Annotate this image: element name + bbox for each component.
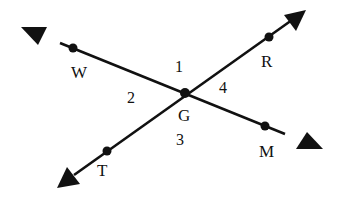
- point-g: [180, 88, 190, 98]
- angle-label-1: 1: [175, 58, 183, 75]
- arrowhead-w-end-icon: [21, 27, 47, 45]
- arrowhead-r-end-icon: [284, 10, 306, 31]
- line-wm: [21, 27, 323, 149]
- point-r: [265, 33, 274, 42]
- intersecting-lines-diagram: W R T M G 1 2 3 4: [0, 0, 338, 204]
- angle-label-3: 3: [176, 131, 184, 148]
- label-g: G: [178, 106, 190, 125]
- label-t: T: [97, 161, 108, 180]
- point-m: [261, 122, 270, 131]
- label-r: R: [261, 52, 273, 71]
- label-w: W: [71, 63, 88, 82]
- label-m: M: [259, 142, 274, 161]
- arrowhead-t-end-icon: [57, 167, 80, 188]
- arrowhead-m-end-icon: [296, 132, 323, 149]
- angle-label-4: 4: [219, 79, 227, 96]
- point-w: [69, 44, 78, 53]
- diagram-canvas: W R T M G 1 2 3 4: [0, 0, 338, 204]
- angle-label-2: 2: [127, 89, 135, 106]
- point-t: [103, 147, 112, 156]
